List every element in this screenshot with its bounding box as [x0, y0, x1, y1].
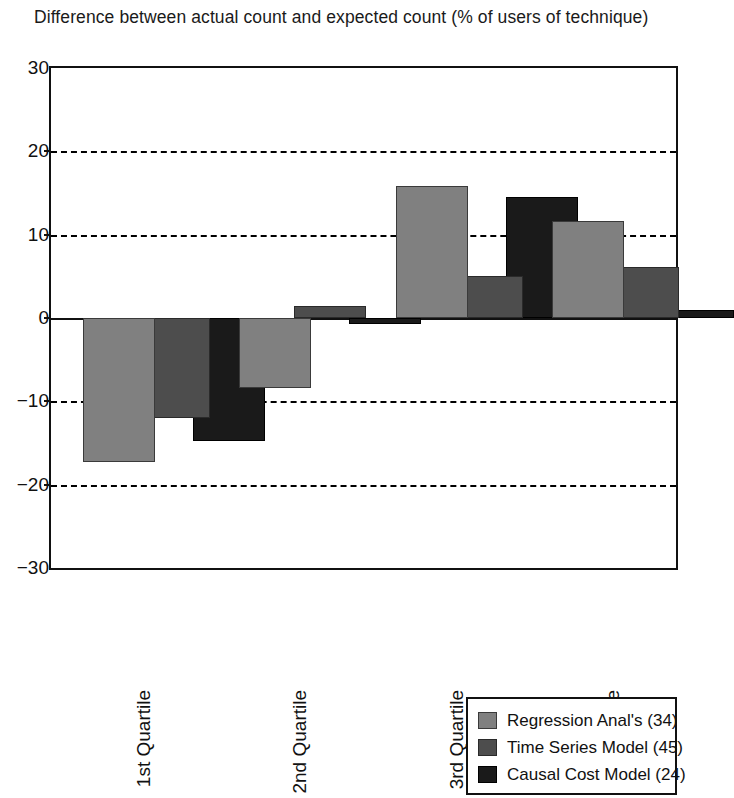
y-axis-tick-label: −10: [5, 390, 49, 412]
gridline-20: [51, 151, 676, 153]
legend-item-1: Regression Anal's (34): [478, 707, 675, 734]
x-axis-category-labels: 1st Quartile2nd Quartile3rd Quartile4th …: [49, 572, 678, 692]
gridline--20: [51, 485, 676, 487]
legend-item-2: Time Series Model (45): [478, 734, 675, 761]
bar-2nd-quartile-series-0: [239, 318, 311, 388]
plot-area: [49, 66, 678, 570]
y-axis-tick-label: 30: [5, 57, 49, 79]
legend-label: Time Series Model (45): [507, 738, 683, 758]
x-axis-label-2: 2nd Quartile: [289, 690, 311, 794]
legend-swatch-icon-2: [478, 739, 497, 756]
bar-3rd-quartile-series-0: [396, 186, 468, 318]
y-axis-tick-label: −20: [5, 474, 49, 496]
plot-inner: [51, 68, 676, 568]
y-axis-tick-label: −30: [5, 557, 49, 579]
chart-title: Difference between actual count and expe…: [34, 4, 674, 30]
bar-2nd-quartile-series-1: [294, 306, 366, 319]
x-axis-label-3: 3rd Quartile: [446, 690, 468, 789]
legend-item-3: Causal Cost Model (24): [478, 761, 675, 788]
legend-label: Regression Anal's (34): [507, 711, 678, 731]
chart-legend: Regression Anal's (34)Time Series Model …: [466, 697, 677, 795]
y-axis-tick-label: 20: [5, 140, 49, 162]
x-axis-label-1: 1st Quartile: [133, 690, 155, 787]
bar-4th-quartile-series-0: [552, 221, 624, 319]
y-axis-tick-label: 10: [5, 224, 49, 246]
y-axis: 3020100−10−20−30: [0, 66, 49, 570]
bar-1st-quartile-series-0: [83, 318, 155, 462]
legend-label: Causal Cost Model (24): [507, 765, 686, 785]
legend-swatch-icon-3: [478, 766, 497, 783]
bar-2nd-quartile-series-2: [349, 318, 421, 324]
legend-swatch-icon-1: [478, 712, 497, 729]
y-axis-tick-label: 0: [5, 307, 49, 329]
